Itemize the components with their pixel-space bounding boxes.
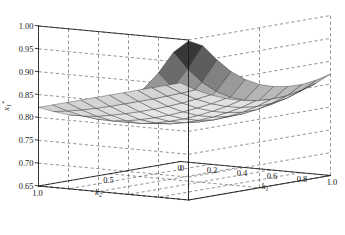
tick-label: 0.2 <box>207 165 218 175</box>
tick-label: 0.95 <box>19 44 34 54</box>
tick-label: 0.6 <box>267 171 278 181</box>
tick-label: 1.0 <box>32 188 43 198</box>
tick-label: 0.85 <box>19 90 34 100</box>
tick-label: 0.75 <box>19 135 34 145</box>
tick-label: 0.4 <box>237 168 248 178</box>
tick-label: 0.8 <box>297 174 308 184</box>
tick-label: 0 <box>177 163 181 173</box>
tick-label: 1.0 <box>327 177 338 187</box>
tick-label: 1.00 <box>19 21 34 31</box>
tick-label: 0.70 <box>19 158 34 168</box>
surface-plot: 0.650.700.750.800.850.900.951.0000.20.40… <box>0 0 345 235</box>
tick-label: 0.80 <box>19 112 34 122</box>
tick-label: 0.5 <box>103 175 114 185</box>
tick-label: 0.90 <box>19 67 34 77</box>
